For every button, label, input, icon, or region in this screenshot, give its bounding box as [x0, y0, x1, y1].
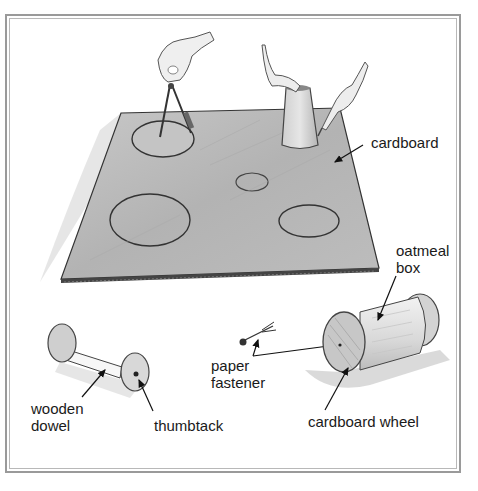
label-oatmeal-box-line1: oatmeal	[396, 242, 449, 259]
label-thumbtack: thumbtack	[154, 417, 223, 434]
label-cardboard-wheel: cardboard wheel	[308, 413, 419, 430]
oatmeal-box-assembly	[305, 294, 450, 388]
label-paper-fastener-line2: fastener	[211, 374, 265, 391]
dowel-axle-assembly	[48, 324, 149, 398]
paper-fastener-arrow-left	[253, 340, 258, 356]
fastener-in-wheel	[338, 343, 341, 346]
label-wooden-dowel-line2: dowel	[31, 417, 70, 434]
label-oatmeal-box-line2: box	[396, 259, 420, 276]
label-cardboard: cardboard	[371, 134, 439, 151]
label-paper-fastener-line1: paper	[211, 357, 249, 374]
label-wooden-dowel-line1: wooden	[31, 400, 84, 417]
thumbtack-head	[134, 372, 139, 377]
